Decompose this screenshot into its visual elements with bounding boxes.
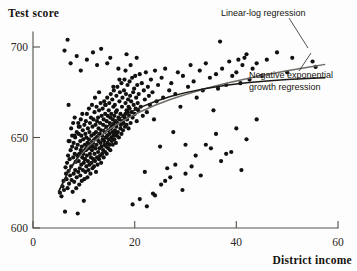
data-point [204, 61, 208, 65]
data-point [125, 83, 129, 87]
data-point [95, 63, 99, 67]
data-point [99, 47, 103, 51]
data-point [91, 117, 95, 121]
data-point [74, 146, 78, 150]
data-point [71, 155, 75, 159]
data-point [145, 204, 149, 208]
data-point [163, 67, 167, 71]
data-point [145, 110, 149, 114]
data-point [140, 81, 144, 85]
data-point [129, 121, 133, 125]
data-point [108, 148, 112, 152]
data-point [68, 157, 72, 161]
data-point [159, 182, 163, 186]
data-point [86, 168, 90, 172]
data-point [160, 76, 164, 80]
data-point [113, 103, 117, 107]
data-point [69, 148, 73, 152]
data-point [76, 143, 80, 147]
data-point [137, 92, 141, 96]
data-point [230, 74, 234, 78]
data-point [112, 88, 116, 92]
data-point [183, 172, 187, 176]
data-point [229, 150, 233, 154]
data-point [105, 96, 109, 100]
data-point [123, 68, 127, 72]
data-point [153, 68, 157, 72]
data-point [72, 141, 76, 145]
x-tick-label-20: 20 [129, 236, 141, 248]
data-point [120, 105, 124, 109]
data-point [135, 83, 139, 87]
data-point [131, 202, 135, 206]
y-tick-label-600: 600 [11, 222, 29, 234]
data-point [107, 101, 111, 105]
data-point [244, 52, 248, 56]
data-point [211, 108, 215, 112]
data-point [132, 87, 136, 91]
data-point [97, 90, 101, 94]
data-point [234, 70, 238, 74]
data-point [218, 39, 222, 43]
data-point [82, 199, 86, 203]
data-point [143, 97, 147, 101]
data-point [62, 49, 66, 53]
data-point [93, 159, 97, 163]
data-point [242, 56, 246, 60]
data-point [63, 210, 67, 214]
data-point [208, 76, 212, 80]
data-point [96, 150, 100, 154]
data-point [92, 110, 96, 114]
data-point [59, 194, 63, 198]
data-point [83, 157, 87, 161]
data-point [124, 92, 128, 96]
data-point [119, 132, 123, 136]
data-point [195, 96, 199, 100]
data-point [124, 123, 128, 127]
data-point [124, 52, 128, 56]
data-point [116, 67, 120, 71]
data-point [93, 123, 97, 127]
data-point [65, 38, 69, 42]
data-point [84, 119, 88, 123]
data-point [255, 117, 259, 121]
data-point [171, 130, 175, 134]
data-point [73, 134, 77, 138]
data-point [101, 106, 105, 110]
data-point [105, 61, 109, 65]
data-point [121, 128, 125, 132]
data-point [94, 143, 98, 147]
data-point [115, 85, 119, 89]
scatter-plot-canvas: 700 650 600 0 20 40 60 Test score Distri… [0, 0, 357, 271]
data-point [198, 68, 202, 72]
data-point [87, 137, 91, 141]
data-point [220, 67, 224, 71]
data-point [92, 152, 96, 156]
annotation-negative-exponential-line1: Negative exponential [249, 70, 333, 80]
data-point [76, 170, 80, 174]
data-point [75, 175, 79, 179]
data-point [234, 126, 238, 130]
data-point [100, 114, 104, 118]
data-point [87, 106, 91, 110]
data-point [214, 72, 218, 76]
data-point [90, 148, 94, 152]
data-point [92, 164, 96, 168]
data-point [95, 163, 99, 167]
data-point [310, 59, 314, 63]
data-point [65, 186, 69, 190]
data-point [79, 134, 83, 138]
data-point [240, 63, 244, 67]
data-point [78, 173, 82, 177]
data-point [93, 96, 97, 100]
data-point [117, 135, 121, 139]
data-point [168, 175, 172, 179]
data-point [136, 101, 140, 105]
data-point [71, 121, 75, 125]
data-point [79, 117, 83, 121]
data-point [102, 99, 106, 103]
data-point [102, 155, 106, 159]
y-tick-label-650: 650 [11, 132, 29, 144]
data-point [199, 173, 203, 177]
data-point [146, 85, 150, 89]
